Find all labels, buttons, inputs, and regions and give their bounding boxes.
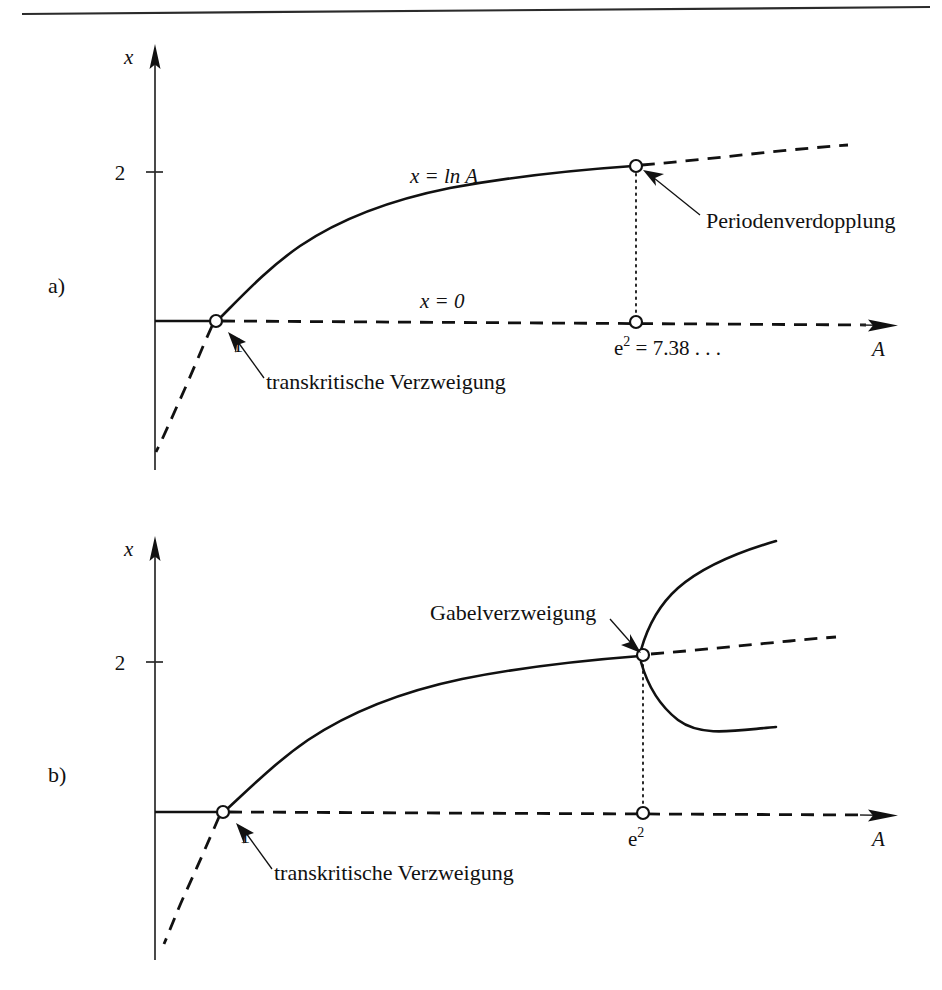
panel-b-ytick-2-label: 2 xyxy=(115,651,126,675)
panel-a-perioddoubling-label: Periodenverdopplung xyxy=(706,208,895,233)
panel-b-pitchfork-upper-branch xyxy=(641,541,776,650)
panel-b-esquared-base: e xyxy=(628,827,637,851)
bifurcation-figure: a) x 2 A 1 xyxy=(0,0,942,990)
panel-b-label: b) xyxy=(48,762,66,787)
panel-b-transcritical-node xyxy=(217,806,229,818)
panel-a-lnA-branch-unstable-left xyxy=(156,326,212,452)
panel-a-lnA-branch-unstable-right xyxy=(642,145,848,165)
panel-b-lnA-branch-unstable-right xyxy=(651,637,836,654)
panel-b: b) x 2 A xyxy=(48,536,898,960)
panel-a-curve-label-lnA-text: x = ln A xyxy=(409,164,478,188)
panel-a-curve-label-lnA: x = ln A xyxy=(409,164,478,188)
panel-a-esquared-suffix: = 7.38 . . . xyxy=(630,336,721,360)
top-horizontal-rule xyxy=(22,7,930,14)
panel-b-lnA-branch-unstable-left xyxy=(164,817,219,944)
panel-b-pitchfork-leader xyxy=(610,619,632,644)
panel-a-label: a) xyxy=(48,273,65,298)
panel-a-transcritical-leader xyxy=(238,342,264,378)
panel-a-transcritical-node xyxy=(210,315,222,327)
panel-a-ytick-2-label: 2 xyxy=(115,161,126,185)
panel-b-transcritical-leader xyxy=(246,833,272,869)
panel-a-curve-label-zero-text: x = 0 xyxy=(419,289,465,313)
panel-a-x-axis-label: A xyxy=(870,337,885,361)
figure-canvas: a) x 2 A 1 xyxy=(0,0,942,990)
panel-a-perioddoubling-leader xyxy=(654,178,700,215)
panel-b-pitchfork-label: Gabelverzweigung xyxy=(430,600,596,625)
panel-a-transcritical-label: transkritische Verzweigung xyxy=(266,369,506,394)
panel-b-esquared-label: e2 xyxy=(628,825,644,851)
panel-b-transcritical-label: transkritische Verzweigung xyxy=(274,860,514,885)
panel-b-y-axis-label: x xyxy=(123,537,134,561)
panel-a-esquared-base: e xyxy=(614,336,623,360)
panel-a-esquared-axis-node xyxy=(630,316,642,328)
panel-b-x-axis-label: A xyxy=(870,827,885,851)
panel-a-esquared-label: e2 = 7.38 . . . xyxy=(614,334,721,360)
panel-b-lnA-branch-stable xyxy=(225,656,640,811)
panel-a-y-axis-label: x xyxy=(123,45,134,69)
panel-a-curve-label-zero: x = 0 xyxy=(419,289,465,313)
panel-a-perioddoubling-node xyxy=(630,160,642,172)
panel-b-zero-branch-unstable xyxy=(229,812,866,815)
panel-b-pitchfork-lower-branch xyxy=(641,662,776,731)
panel-b-esquared-axis-node xyxy=(637,807,649,819)
panel-a-esquared-superscript: 2 xyxy=(623,334,630,349)
panel-a: a) x 2 A 1 xyxy=(48,44,898,470)
panel-a-zero-branch-unstable xyxy=(222,321,866,325)
panel-b-esquared-superscript: 2 xyxy=(637,825,644,840)
panel-b-pitchfork-arrowhead xyxy=(621,634,641,653)
